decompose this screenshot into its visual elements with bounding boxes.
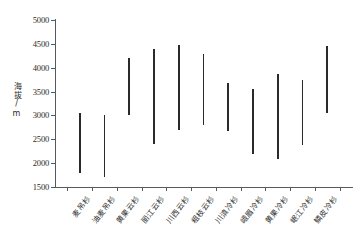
y-axis-tick: [51, 68, 55, 69]
x-axis-label: 黄果冷杉: [262, 193, 291, 226]
y-axis-tick-label: 5000: [33, 15, 49, 25]
y-axis-tick-label: 3500: [33, 87, 49, 97]
x-axis-label: 峨眉冷杉: [237, 193, 266, 226]
x-axis-tick: [216, 187, 217, 191]
range-bar: [153, 49, 155, 144]
y-axis-tick-label: 4500: [33, 39, 49, 49]
range-bar: [227, 83, 229, 130]
range-bar: [203, 54, 205, 125]
x-axis-label: 麦吊杉: [69, 193, 93, 219]
range-bar: [252, 89, 254, 154]
y-axis-tick-label: 4000: [33, 63, 49, 73]
range-bar: [104, 115, 106, 177]
range-bar: [79, 113, 81, 173]
y-axis-tick-label: 1500: [33, 182, 49, 192]
x-axis-label: 黄果云杉: [113, 193, 142, 226]
x-axis-label: 岷江冷杉: [286, 193, 315, 226]
x-axis-tick: [315, 187, 316, 191]
chart-container: 海拔/m 15002000250030003500400045005000 麦吊…: [0, 0, 364, 241]
x-axis-label: 鳞皮冷杉: [311, 193, 340, 226]
x-axis-tick: [142, 187, 143, 191]
y-axis-tick: [51, 187, 55, 188]
x-axis-label: 川滇冷杉: [212, 193, 241, 226]
x-axis-tick: [191, 187, 192, 191]
y-axis-tick: [51, 44, 55, 45]
x-axis-tick: [117, 187, 118, 191]
x-axis-tick: [92, 187, 93, 191]
x-axis-label: 丽江云杉: [138, 193, 167, 226]
range-bar: [277, 74, 279, 159]
x-axis-tick: [67, 187, 68, 191]
y-axis-tick: [51, 139, 55, 140]
x-axis-label: 油麦吊杉: [88, 193, 117, 226]
y-axis-line: [55, 19, 56, 188]
y-axis-tick: [51, 115, 55, 116]
x-axis-line: [55, 187, 353, 188]
y-axis-tick-label: 3000: [33, 110, 49, 120]
x-axis-tick: [166, 187, 167, 191]
x-axis-tick: [340, 187, 341, 191]
range-bar: [178, 45, 180, 130]
x-axis-tick: [265, 187, 266, 191]
y-axis-tick-label: 2500: [33, 134, 49, 144]
y-axis-tick: [51, 163, 55, 164]
range-bar: [128, 58, 130, 115]
range-bar: [302, 80, 304, 145]
range-bar: [326, 46, 328, 112]
y-axis-tick: [51, 20, 55, 21]
x-axis-tick: [241, 187, 242, 191]
y-axis-tick-label: 2000: [33, 158, 49, 168]
x-axis-label: 粗枝云杉: [187, 193, 216, 226]
y-axis-tick: [51, 92, 55, 93]
y-axis-title: 海拔/m: [11, 82, 22, 118]
x-axis-label: 川西云杉: [163, 193, 192, 226]
x-axis-tick: [290, 187, 291, 191]
